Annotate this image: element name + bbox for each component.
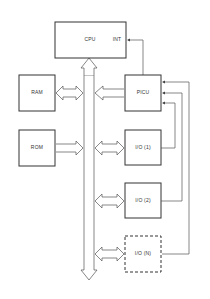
io1-label: I/O (1) [135, 144, 151, 150]
irq-line-io2 [161, 93, 182, 201]
ion-block: I/O (N) [125, 236, 161, 272]
arrowhead-icon [162, 92, 165, 95]
rom-bus-arrow [56, 141, 83, 155]
cpu-block: CPU INT [55, 22, 126, 58]
ion-label: I/O (N) [135, 250, 152, 256]
picu-label: PICU [137, 89, 150, 95]
arrowhead-icon [162, 81, 165, 84]
picu-bus-arrow [95, 86, 124, 100]
ion-bus-arrow [95, 247, 124, 261]
io1-bus-arrow [95, 141, 124, 155]
io2-bus-arrow [95, 194, 124, 208]
ram-bus-arrow [56, 86, 83, 100]
arrowhead-icon [127, 39, 130, 42]
cpu-label: CPU [84, 36, 95, 42]
rom-block: ROM [19, 130, 55, 166]
ram-label: RAM [31, 89, 43, 95]
irq-line-io1 [161, 103, 175, 148]
irq-line-ion [162, 82, 189, 254]
block-diagram: CPU INT RAM PICU ROM I/O (1) I/O (2) I [0, 0, 210, 299]
ram-block: RAM [19, 75, 55, 111]
io2-block: I/O (2) [125, 183, 161, 218]
picu-block: PICU [125, 75, 161, 111]
arrowhead-icon [162, 102, 165, 105]
io2-label: I/O (2) [135, 197, 151, 203]
rom-label: ROM [31, 144, 43, 150]
system-bus [81, 58, 97, 280]
io1-block: I/O (1) [125, 130, 161, 165]
int-signal-line [127, 39, 143, 76]
irq-lines [161, 81, 189, 255]
cpu-int-port-label: INT [113, 36, 122, 42]
